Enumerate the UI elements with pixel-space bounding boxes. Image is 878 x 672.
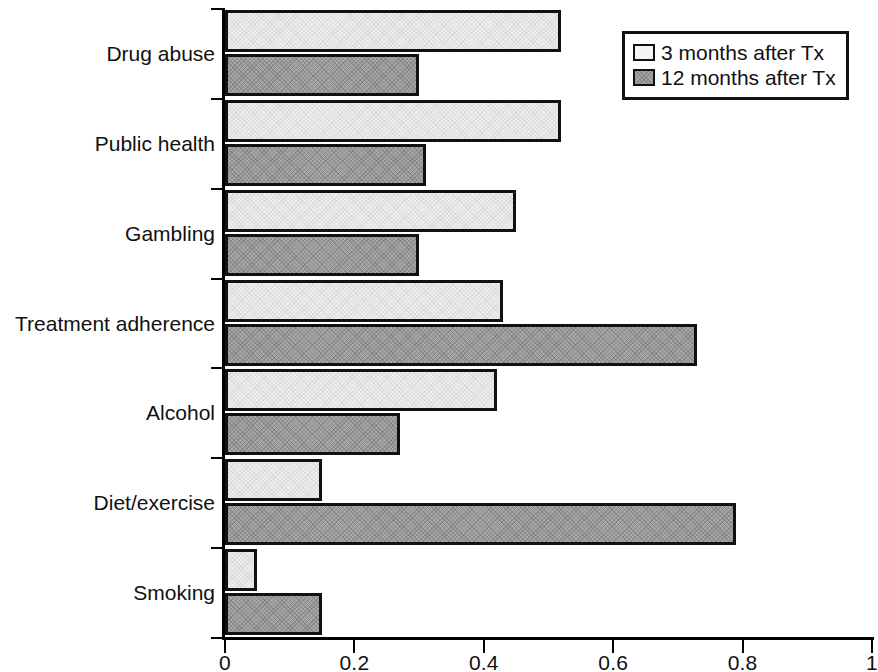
legend-label-3-months: 3 months after Tx [661, 42, 824, 63]
category-label-2: Gambling [0, 222, 215, 243]
bar-public-health-12-months [225, 144, 426, 186]
legend: 3 months after Tx 12 months after Tx [622, 31, 849, 100]
bar-treatment-adherence-3-months [225, 280, 503, 322]
bar-drug-abuse-3-months [225, 10, 561, 52]
category-label-1: Public health [0, 132, 215, 153]
bar-alcohol-3-months [225, 369, 497, 411]
legend-swatch-12-months [633, 69, 655, 86]
bar-diet-exercise-3-months [225, 459, 322, 501]
x-axis-tick-label-0: 0 [219, 652, 231, 672]
y-axis-tick-end-0 [211, 8, 223, 10]
x-axis-tick-label-2: 0.4 [469, 652, 499, 672]
x-axis-tick-label-3: 0.6 [598, 652, 628, 672]
category-axis-labels: Drug abusePublic healthGamblingTreatment… [0, 0, 215, 672]
x-axis-tick-label-4: 0.8 [728, 652, 758, 672]
bar-treatment-adherence-12-months [225, 324, 697, 366]
y-axis-tick-4 [211, 367, 223, 369]
y-axis-tick-end-1 [211, 637, 223, 639]
legend-label-12-months: 12 months after Tx [661, 67, 836, 88]
y-axis-tick-1 [211, 98, 223, 100]
legend-swatch-3-months [633, 44, 655, 61]
category-label-5: Diet/exercise [0, 492, 215, 513]
bar-smoking-12-months [225, 593, 322, 635]
bar-smoking-3-months [225, 549, 257, 591]
category-label-3: Treatment adherence [0, 312, 215, 333]
legend-item-3-months: 3 months after Tx [633, 40, 836, 65]
bar-public-health-3-months [225, 100, 561, 142]
plot-area [225, 8, 874, 638]
x-axis-tick-label-5: 1 [866, 652, 878, 672]
bar-diet-exercise-12-months [225, 503, 736, 545]
x-axis-tick-label-1: 0.2 [339, 652, 369, 672]
legend-item-12-months: 12 months after Tx [633, 65, 836, 90]
category-label-0: Drug abuse [0, 42, 215, 63]
y-axis-tick-2 [211, 188, 223, 190]
bar-alcohol-12-months [225, 413, 400, 455]
y-axis-tick-6 [211, 547, 223, 549]
bar-drug-abuse-12-months [225, 54, 419, 96]
y-axis-tick-3 [211, 278, 223, 280]
bar-gambling-12-months [225, 234, 419, 276]
category-label-4: Alcohol [0, 402, 215, 423]
y-axis-tick-5 [211, 457, 223, 459]
category-label-6: Smoking [0, 582, 215, 603]
bar-gambling-3-months [225, 190, 516, 232]
